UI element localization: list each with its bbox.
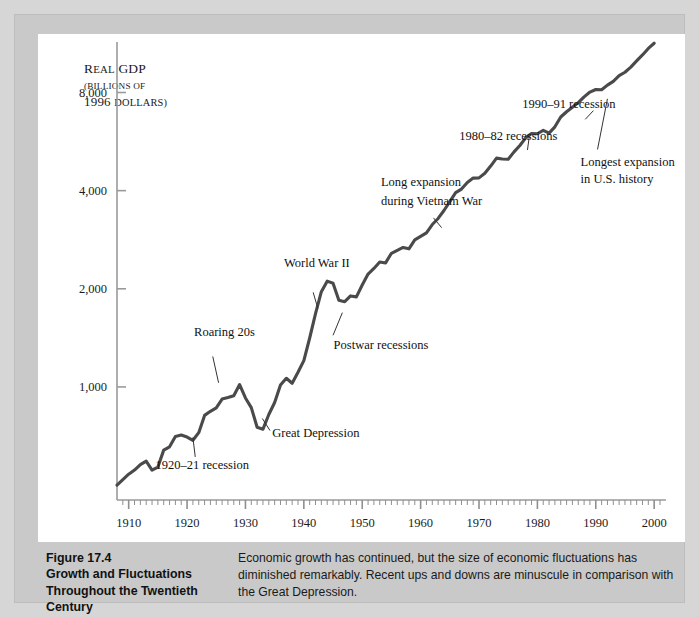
chart-annotation-label: 1920–21 recession <box>156 458 250 472</box>
gdp-line-chart: 1,0002,0004,0008,000 1910192019301940195… <box>38 34 685 542</box>
x-axis-ticks: 1910192019301940195019601970198019902000 <box>116 500 666 530</box>
figure-number: Figure 17.4 <box>46 550 221 566</box>
chart-annotation-label: Longest expansion <box>581 155 676 169</box>
x-tick-label: 1920 <box>175 516 200 530</box>
x-tick-label: 1970 <box>467 516 492 530</box>
chart-annotation-label: Great Depression <box>272 426 360 440</box>
x-tick-label: 2000 <box>642 516 667 530</box>
figure-root: REAL GDP (BILLIONS OF 1996 DOLLARS) 1,00… <box>0 0 699 617</box>
x-tick-label: 1990 <box>583 516 608 530</box>
chart-annotation-label: World War II <box>284 256 350 270</box>
x-tick-label: 1910 <box>116 516 141 530</box>
chart-annotation-label: Postwar recessions <box>334 338 429 352</box>
y-tick-label: 8,000 <box>79 86 107 100</box>
figure-title-line-1: Growth and Fluctuations <box>46 566 221 582</box>
figure-caption-title: Figure 17.4 Growth and Fluctuations Thro… <box>46 550 221 616</box>
chart-annotation-label: Roaring 20s <box>194 325 255 339</box>
figure-caption-body: Economic growth has continued, but the s… <box>238 550 678 600</box>
x-tick-label: 1950 <box>350 516 375 530</box>
chart-annotation-label: 1990–91 recession <box>522 97 616 111</box>
x-tick-label: 1960 <box>408 516 433 530</box>
x-tick-label: 1980 <box>525 516 550 530</box>
x-tick-label: 1930 <box>233 516 258 530</box>
y-tick-label: 2,000 <box>79 282 107 296</box>
chart-annotations: Roaring 20s1920–21 recessionGreat Depres… <box>156 97 676 472</box>
y-tick-label: 4,000 <box>79 184 107 198</box>
figure-title-line-3: Century <box>46 599 221 615</box>
chart-annotation-label: during Vietnam War <box>381 194 483 208</box>
chart-annotation-label: in U.S. history <box>581 172 655 186</box>
chart-annotation-label: 1980–82 recessions <box>459 129 557 143</box>
x-tick-label: 1940 <box>291 516 316 530</box>
y-tick-label: 1,000 <box>79 380 107 394</box>
chart-annotation-label: Long expansion <box>381 175 462 189</box>
figure-title-line-2: Throughout the Twentieth <box>46 583 221 599</box>
plot-panel: REAL GDP (BILLIONS OF 1996 DOLLARS) 1,00… <box>38 34 685 542</box>
figure-caption: Figure 17.4 Growth and Fluctuations Thro… <box>38 548 688 610</box>
y-axis-ticks: 1,0002,0004,0008,000 <box>79 86 126 394</box>
figure-shell: REAL GDP (BILLIONS OF 1996 DOLLARS) 1,00… <box>14 14 685 603</box>
